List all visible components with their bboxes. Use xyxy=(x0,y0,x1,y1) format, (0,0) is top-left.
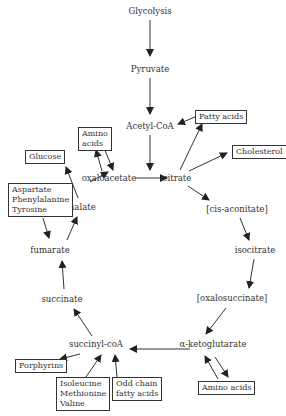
node-acetyl-coa: Acetyl-CoA xyxy=(126,121,174,131)
box-glucose: Glucose xyxy=(25,150,65,164)
node-succinyl-coa: succinyl-coA xyxy=(69,339,123,349)
arrow-citrate-cholesterol xyxy=(189,153,227,171)
node-oxalosuccinate: [oxalosuccinate] xyxy=(197,293,268,303)
arrow-aspartate-fumarate xyxy=(43,218,49,238)
arrow-isocitrate-oxalosuccinate xyxy=(249,259,254,288)
arrow-fattyacids-acetylcoa xyxy=(178,117,195,124)
arrow-citrate-fattyacids xyxy=(180,124,202,170)
arrow-succinate-fumarate xyxy=(62,261,64,289)
arrow-oxaloacetate-aminoacids xyxy=(96,150,102,171)
box-amino-acids-bottom: Amino acids xyxy=(198,381,255,395)
node-fumarate: fumarate xyxy=(30,245,69,255)
arrow-aketoglutarate-aminoacids xyxy=(215,357,228,377)
node-citrate: citrate xyxy=(163,173,191,183)
arrow-oddchain-succinylcoa xyxy=(115,355,117,377)
node-oxaloacetate: oxaloacetate xyxy=(82,173,137,183)
box-aspartate-group: Aspartate Phenylalanine Tyrosine xyxy=(8,183,73,217)
box-porphyrins: Porphyrins xyxy=(15,359,67,373)
node-cis-aconitate: [cis-aconitate] xyxy=(206,204,267,214)
arrow-succinylcoa-succinate xyxy=(74,309,92,336)
node-isocitrate: isocitrate xyxy=(235,245,276,255)
node-glycolysis: Glycolysis xyxy=(128,6,171,16)
arrow-isoleucine-succinylcoa xyxy=(86,355,101,377)
box-amino-acids-top: Amino acids xyxy=(78,127,112,151)
node-alpha-ketoglutarate: α-ketoglutarate xyxy=(179,339,246,349)
arrow-aminoacids-oxaloacetate xyxy=(104,148,113,170)
box-odd-chain-fatty-acids: Odd chain fatty acids xyxy=(112,377,162,401)
arrow-cisaconitate-isocitrate xyxy=(240,218,249,240)
arrow-citrate-cisaconitate xyxy=(188,186,209,200)
node-pyruvate: Pyruvate xyxy=(131,64,169,74)
box-cholesterol: Cholesterol xyxy=(232,145,286,159)
arrow-oxalosuccinate-aketoglutarate xyxy=(206,308,226,334)
node-succinate: succinate xyxy=(41,294,82,304)
box-fatty-acids: Fatty acids xyxy=(195,110,247,124)
box-isoleucine-group: Isoleucine Methionine Valine xyxy=(56,377,110,411)
arrow-fumarate-malate xyxy=(67,217,77,240)
